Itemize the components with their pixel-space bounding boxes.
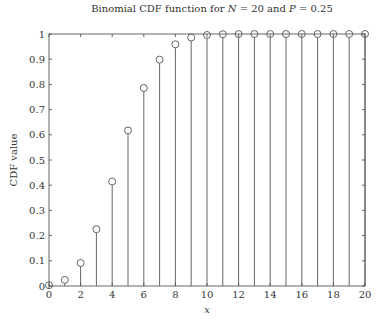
stem-point (140, 84, 147, 286)
x-tick-label: 0 (46, 289, 52, 300)
stem-point (125, 127, 132, 286)
y-tick-label: 0.5 (29, 155, 45, 166)
circle-marker-icon (93, 226, 100, 233)
x-tick-label: 8 (172, 289, 178, 300)
stem-point (235, 31, 242, 286)
x-tick-label: 6 (141, 289, 147, 300)
x-tick-label: 10 (201, 289, 214, 300)
stem-point (93, 226, 100, 286)
stem-point (251, 31, 258, 287)
y-tick-label: 0.7 (29, 104, 45, 115)
stem-point (362, 31, 369, 287)
circle-marker-icon (140, 84, 147, 91)
circle-marker-icon (109, 178, 116, 185)
binomial-cdf-chart: Binomial CDF function for N = 20 and P =… (0, 0, 385, 324)
y-tick-label: 0.1 (29, 255, 45, 266)
stem-point (61, 276, 68, 286)
x-tick-label: 20 (359, 289, 372, 300)
stem-point (314, 31, 321, 287)
stem-point (283, 31, 290, 287)
x-tick-label: 16 (295, 289, 308, 300)
y-axis-label: CDF value (8, 133, 19, 186)
stem-point (188, 34, 195, 286)
y-tick-label: 0.3 (29, 205, 45, 216)
stem-point (219, 31, 226, 286)
stem-point (109, 178, 116, 286)
stem-point (172, 41, 179, 286)
y-tick-label: 0 (39, 281, 45, 292)
circle-marker-icon (77, 259, 84, 266)
chart-title: Binomial CDF function for N = 20 and P =… (91, 3, 333, 14)
stem-point (330, 31, 337, 287)
circle-marker-icon (188, 34, 195, 41)
x-axis-label: x (204, 304, 210, 315)
x-tick-label: 2 (77, 289, 83, 300)
y-tick-label: 0.2 (29, 230, 45, 241)
stem-point (346, 31, 353, 287)
y-tick-label: 0.8 (29, 79, 45, 90)
y-tick-label: 0.9 (29, 54, 45, 65)
circle-marker-icon (125, 127, 132, 134)
stem-point (77, 259, 84, 286)
y-tick-label: 0.6 (29, 129, 45, 140)
y-tick-label: 0.4 (29, 180, 45, 191)
stem-point (204, 31, 211, 286)
x-tick-label: 14 (264, 289, 277, 300)
stem-point (267, 31, 274, 287)
circle-marker-icon (172, 41, 179, 48)
stem-series (46, 31, 369, 289)
stem-point (298, 31, 305, 287)
circle-marker-icon (156, 56, 163, 63)
x-tick-label: 18 (327, 289, 340, 300)
circle-marker-icon (61, 276, 68, 283)
y-tick-label: 1 (39, 29, 45, 40)
x-tick-label: 4 (109, 289, 115, 300)
x-tick-label: 12 (232, 289, 245, 300)
stem-point (156, 56, 163, 286)
